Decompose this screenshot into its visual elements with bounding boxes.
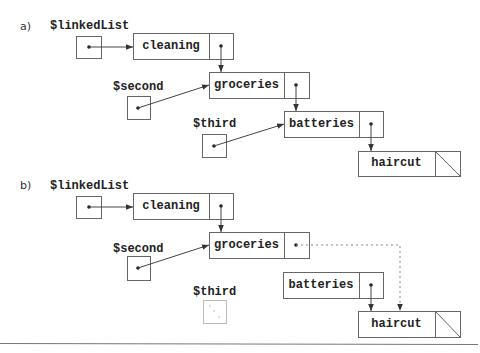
diagram-canvas bbox=[0, 0, 480, 353]
var-box-third-b bbox=[204, 301, 227, 324]
node-box-cleaning-b bbox=[134, 194, 234, 220]
null-pointer-icon bbox=[436, 312, 461, 338]
node-box-cleaning-a bbox=[134, 34, 234, 60]
node-box-batteries-b bbox=[284, 273, 384, 299]
bottom-divider bbox=[0, 344, 478, 345]
relinked-pointer-arrow bbox=[296, 245, 400, 311]
node-box-haircut-a bbox=[359, 152, 461, 177]
null-pointer-icon bbox=[436, 152, 461, 177]
node-box-haircut-b bbox=[359, 312, 461, 338]
node-box-batteries-a bbox=[285, 112, 384, 138]
